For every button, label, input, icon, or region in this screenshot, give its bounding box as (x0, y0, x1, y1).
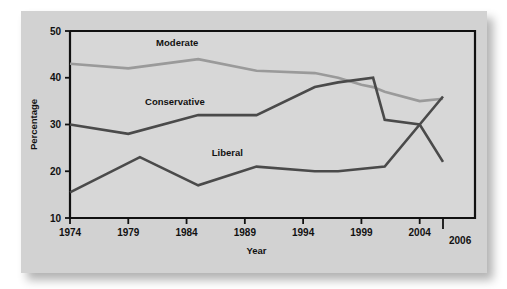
series-label-liberal: Liberal (212, 147, 243, 158)
x-tick-label: 2004 (409, 227, 432, 238)
x-tick-label: 1974 (59, 227, 82, 238)
series-label-moderate: Moderate (156, 37, 198, 48)
x-tick-label: 1999 (350, 227, 373, 238)
x-tick-label: 1984 (175, 227, 198, 238)
y-tick-label: 50 (50, 26, 62, 37)
chart-card: 1020304050197419791984198919941999200420… (21, 11, 487, 273)
y-axis-title: Percentage (28, 99, 39, 150)
y-tick-label: 10 (50, 213, 62, 224)
x-tick-label: 2006 (449, 235, 472, 246)
x-tick-label: 1994 (292, 227, 315, 238)
y-tick-label: 20 (50, 166, 62, 177)
y-tick-label: 30 (50, 119, 62, 130)
x-tick-label: 1979 (117, 227, 140, 238)
chart-figure: 1020304050197419791984198919941999200420… (0, 0, 507, 289)
x-axis-title: Year (246, 245, 266, 256)
y-tick-label: 40 (50, 72, 62, 83)
series-label-conservative: Conservative (145, 96, 205, 107)
x-tick-label: 1989 (234, 227, 257, 238)
line-chart: 1020304050197419791984198919941999200420… (21, 11, 487, 273)
